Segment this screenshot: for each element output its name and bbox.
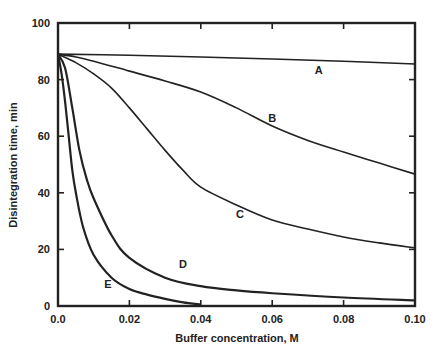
curve-d	[58, 54, 415, 300]
x-tick-label: 0.08	[333, 313, 354, 325]
x-tick-label: 0.0	[50, 313, 65, 325]
curve-label-d: D	[179, 258, 187, 270]
y-tick-label: 20	[38, 243, 50, 255]
y-tick-label: 80	[38, 74, 50, 86]
y-axis-label: Disintegration time, min	[7, 102, 19, 228]
curve-label-b: B	[268, 112, 276, 124]
curve-label-c: C	[236, 208, 244, 220]
x-tick-label: 0.06	[261, 313, 282, 325]
curve-label-e: E	[104, 278, 111, 290]
y-tick-label: 0	[44, 300, 50, 312]
x-tick-label: 0.02	[119, 313, 140, 325]
curves	[58, 54, 415, 304]
x-tick-label: 0.04	[190, 313, 212, 325]
curve-a	[58, 54, 415, 64]
y-tick-label: 100	[32, 17, 50, 29]
disintegration-chart: 020406080100 0.00.020.040.060.080.10 ABC…	[0, 0, 440, 358]
curve-label-a: A	[315, 64, 323, 76]
x-axis-label: Buffer concentration, M	[175, 332, 298, 344]
y-tick-label: 40	[38, 187, 50, 199]
y-tick-label: 60	[38, 130, 50, 142]
x-tick-label: 0.10	[404, 313, 425, 325]
curve-b	[58, 54, 415, 174]
